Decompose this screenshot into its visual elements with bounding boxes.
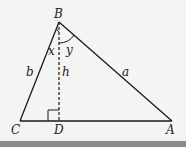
side-ba bbox=[59, 22, 172, 121]
label-vertex-b: B bbox=[54, 8, 63, 20]
label-angle-y: y bbox=[66, 44, 73, 56]
bottom-border-band bbox=[0, 141, 186, 147]
label-angle-x: x bbox=[48, 45, 55, 57]
right-angle-marker bbox=[48, 110, 59, 121]
label-altitude-h: h bbox=[62, 66, 70, 78]
label-side-a: a bbox=[122, 66, 129, 78]
label-vertex-c: C bbox=[11, 124, 20, 136]
label-vertex-a: A bbox=[166, 124, 175, 136]
label-side-b: b bbox=[26, 66, 34, 78]
label-vertex-d: D bbox=[54, 124, 64, 136]
angle-y-arc bbox=[59, 35, 74, 43]
